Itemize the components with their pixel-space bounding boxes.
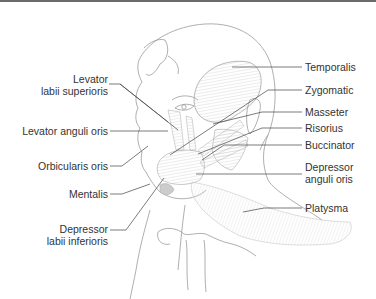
label-line: anguli oris [305,173,353,185]
label-depressor-labii-inferioris: Depressor labii inferioris [47,223,108,247]
label-line: Levator [41,73,108,85]
label-line: Masseter [305,106,348,118]
levator-muscles [168,110,196,150]
label-line: Depressor [305,161,353,173]
label-temporalis: Temporalis [305,61,356,73]
label-depressor-anguli-oris: Depressor anguli oris [305,161,353,185]
label-line: labii superioris [41,85,108,97]
label-levator-labii-superioris: Levator labii superioris [41,73,108,97]
label-platysma: Platysma [305,202,348,214]
label-risorius: Risorius [305,122,343,134]
label-line: Zygomatic [305,84,353,96]
clavicle-outline [158,228,256,292]
label-line: Temporalis [305,61,356,73]
temporalis-muscle [194,61,261,122]
label-line: Risorius [305,122,343,134]
label-line: Depressor [47,223,108,235]
label-line: Mentalis [69,188,108,200]
label-line: Buccinator [305,139,355,151]
label-masseter: Masseter [305,106,348,118]
label-levator-anguli-oris: Levator anguli oris [22,125,108,137]
label-orbicularis-oris: Orbicularis oris [38,160,108,172]
label-line: Orbicularis oris [38,160,108,172]
mentalis-muscle [160,184,174,195]
label-buccinator: Buccinator [305,139,355,151]
label-mentalis: Mentalis [69,188,108,200]
label-line: Levator anguli oris [22,125,108,137]
label-line: Platysma [305,202,348,214]
label-zygomatic: Zygomatic [305,84,353,96]
orbicularis-oris-muscle [157,150,204,184]
label-line: labii inferioris [47,235,108,247]
